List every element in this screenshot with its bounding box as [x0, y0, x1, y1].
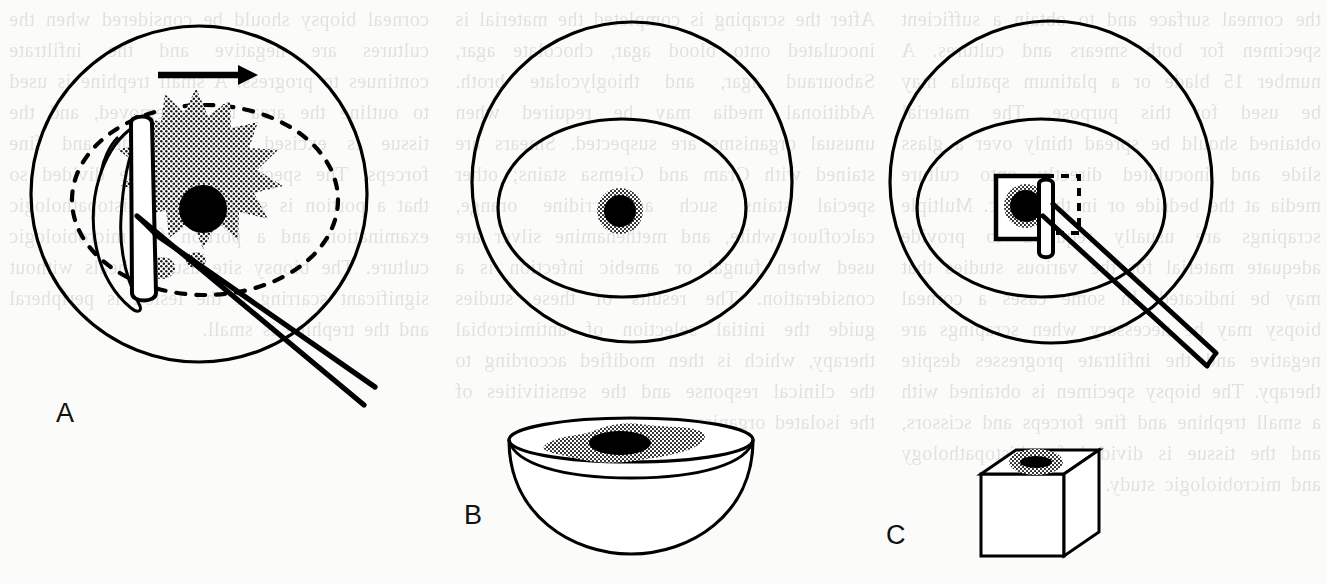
panel-label-c: C — [886, 520, 906, 551]
panel-a-outer-circle — [31, 26, 367, 362]
panel-b-outer-circle — [472, 22, 792, 342]
panel-a-tissue-flap — [93, 127, 140, 311]
panel-b-lesion-stipple-ring — [597, 188, 643, 234]
showthrough-column-1: the corneal surface and to obtain a suff… — [901, 4, 1321, 500]
figure-root: the corneal surface and to obtain a suff… — [0, 0, 1327, 584]
panel-c-lesion-stipple-ring — [1004, 184, 1048, 228]
panel-a-lesion-starburst — [118, 88, 283, 279]
panel-b-smear-core — [589, 431, 651, 455]
panel-a-tissue-flap-inner-fold — [101, 137, 118, 172]
panel-c-cube-lesion-core — [1020, 456, 1052, 468]
panel-b-culture-dish — [509, 418, 753, 554]
panel-label-a: A — [56, 398, 75, 429]
panel-c-inner-cornea-ellipse — [917, 119, 1165, 297]
showthrough-column-3: corneal biopsy should be considered when… — [9, 4, 429, 345]
panel-c-tissue-block-square — [996, 176, 1048, 239]
panel-c-blade — [1039, 180, 1053, 258]
panel-c-outer-circle — [890, 21, 1212, 343]
panel-b-artwork — [472, 22, 792, 554]
panel-c-instrument-handle — [1043, 204, 1216, 366]
panel-c-paraffin-cube — [981, 449, 1099, 556]
panel-a-artwork — [31, 26, 375, 405]
panel-c-dashed-square-outline — [1046, 176, 1079, 233]
panel-label-b: B — [464, 500, 483, 531]
panel-b-lesion-core — [604, 195, 636, 227]
figure-artwork — [0, 0, 1327, 584]
panel-b-smear-stipple — [544, 423, 705, 462]
panel-a-blade — [131, 117, 156, 301]
panel-c-lesion-core — [1010, 190, 1042, 222]
page-showthrough-text: the corneal surface and to obtain a suff… — [0, 0, 1327, 584]
showthrough-column-2: After the scraping is completed the mate… — [455, 4, 875, 438]
panel-c-artwork — [890, 21, 1216, 556]
panel-b-inner-cornea-ellipse — [498, 119, 746, 297]
panel-a-direction-arrow — [158, 65, 258, 85]
panel-a-instrument-handle — [137, 216, 375, 405]
panel-a-lesion-core — [179, 185, 227, 233]
panel-c-cube-stipple-ellipse — [1009, 449, 1063, 475]
panel-a-dashed-cornea-ellipse — [72, 105, 338, 295]
